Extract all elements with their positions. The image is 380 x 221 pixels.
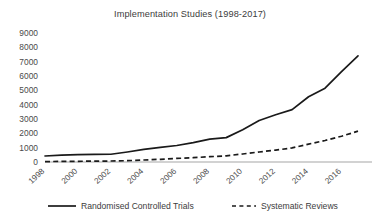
y-axis-tick-label: 2000: [19, 128, 38, 138]
series-lines: [45, 56, 358, 162]
y-axis-tick-label: 9000: [19, 28, 38, 38]
x-axis-tick-label: 2002: [93, 167, 113, 186]
legend-label: Systematic Reviews: [261, 201, 338, 211]
x-axis-tick-label: 2008: [192, 167, 212, 186]
implementation-studies-line-chart: Implementation Studies (1998-2017) 90008…: [0, 0, 380, 221]
chart-legend: Randomised Controlled TrialsSystematic R…: [48, 201, 338, 211]
x-axis-tick-label: 2016: [323, 167, 343, 186]
x-axis-tick-label: 2014: [290, 167, 310, 186]
chart-container: Implementation Studies (1998-2017) 90008…: [0, 0, 380, 221]
x-axis-tick-label: 2000: [60, 167, 80, 186]
x-axis-tick-label: 2006: [159, 167, 179, 186]
y-axis-tick-labels: 9000800070006000500040003000200010000: [19, 28, 38, 167]
chart-title: Implementation Studies (1998-2017): [114, 9, 266, 19]
y-axis-tick-label: 5000: [19, 85, 38, 95]
legend-label: Randomised Controlled Trials: [81, 201, 194, 211]
x-axis-tick-labels: 1998200020022004200620082010201220142016: [27, 167, 343, 186]
x-axis-tick-label: 1998: [27, 167, 47, 186]
y-axis-tick-label: 6000: [19, 71, 38, 81]
y-axis-tick-label: 0: [33, 157, 38, 167]
series-line-systematic-reviews: [45, 131, 358, 161]
x-axis-tick-label: 2012: [257, 167, 277, 186]
y-axis-tick-label: 3000: [19, 114, 38, 124]
y-axis-tick-label: 1000: [19, 143, 38, 153]
series-line-randomised-controlled-trials: [45, 56, 358, 156]
y-axis-tick-label: 4000: [19, 100, 38, 110]
x-axis-tick-label: 2010: [224, 167, 244, 186]
y-axis-tick-label: 7000: [19, 57, 38, 67]
y-axis-tick-label: 8000: [19, 42, 38, 52]
x-axis-tick-label: 2004: [126, 167, 146, 186]
